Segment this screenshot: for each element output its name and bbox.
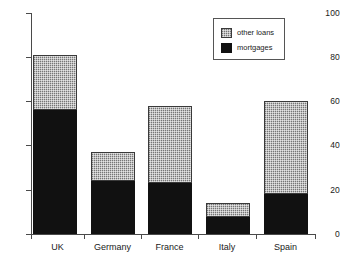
bar-italy-segment-other-loans <box>206 203 250 217</box>
legend-entry-other-loans: other loans <box>221 27 274 38</box>
y-axis-line <box>31 13 32 235</box>
legend-swatch-other-loans-icon <box>221 28 232 38</box>
x-tick-label-uk: UK <box>31 242 84 252</box>
x-tick-mark-4 <box>256 234 257 239</box>
x-axis-line <box>31 234 316 235</box>
legend-label-mortgages: mortgages <box>237 44 272 52</box>
bar-uk-segment-other-loans <box>33 55 77 110</box>
x-tick-mark-right-edge <box>315 234 316 239</box>
bar-spain[interactable] <box>264 101 308 234</box>
bar-france-segment-other-loans <box>148 106 192 183</box>
bar-france[interactable] <box>148 106 192 234</box>
y-tick-mark-40 <box>26 145 31 146</box>
bar-germany-segment-other-loans <box>91 152 135 181</box>
legend-label-other-loans: other loans <box>237 29 274 37</box>
y-tick-mark-80 <box>26 57 31 58</box>
bar-spain-segment-mortgages <box>264 194 308 234</box>
y-tick-mark-100 <box>26 13 31 14</box>
y-tick-label-0: 0 <box>314 230 340 239</box>
x-tick-label-spain: Spain <box>256 242 315 252</box>
chart-legend: other loans mortgages <box>213 18 285 60</box>
bar-spain-segment-other-loans <box>264 101 308 194</box>
bar-italy[interactable] <box>206 203 250 234</box>
x-tick-mark-2 <box>141 234 142 239</box>
bar-germany-segment-mortgages <box>91 181 135 234</box>
bar-italy-segment-mortgages <box>206 217 250 234</box>
y-tick-mark-20 <box>26 190 31 191</box>
y-tick-label-20: 20 <box>314 186 340 195</box>
x-tick-mark-1 <box>84 234 85 239</box>
x-tick-label-italy: Italy <box>198 242 256 252</box>
x-tick-mark-left-edge <box>31 234 32 239</box>
bar-france-segment-mortgages <box>148 183 192 234</box>
legend-swatch-mortgages-icon <box>221 43 232 53</box>
bar-uk[interactable] <box>33 55 77 234</box>
y-tick-label-100: 100 <box>314 9 340 18</box>
y-tick-label-80: 80 <box>314 53 340 62</box>
bar-germany[interactable] <box>91 152 135 234</box>
bar-uk-segment-mortgages <box>33 110 77 234</box>
x-tick-mark-3 <box>198 234 199 239</box>
x-tick-label-france: France <box>141 242 198 252</box>
y-tick-label-40: 40 <box>314 141 340 150</box>
legend-entry-mortgages: mortgages <box>221 42 272 53</box>
x-tick-label-germany: Germany <box>84 242 141 252</box>
y-tick-label-60: 60 <box>314 97 340 106</box>
stacked-bar-chart: 100 80 60 40 20 0 UK Germany France Ital… <box>0 0 340 264</box>
y-tick-mark-60 <box>26 101 31 102</box>
